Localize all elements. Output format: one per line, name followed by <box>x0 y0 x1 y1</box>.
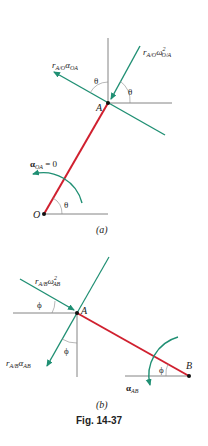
alpha-oa-curved-arrow <box>33 173 82 203</box>
alpha-oa-label: αOA = 0 <box>30 159 58 170</box>
theta-label-o: θ <box>64 200 68 210</box>
panel-a: θ θ θ A O (a) rA/OαOA rA/Oω2O/A αOA = 0 <box>30 38 172 236</box>
theta-arc-top <box>90 82 108 93</box>
panel-b-label: (b) <box>96 399 108 411</box>
point-b-dot <box>187 374 191 378</box>
panel-b: ϕ ϕ ϕ A B (b) rA/Bω2AB rA/BαAB αAB <box>6 257 192 411</box>
phi-arc-b <box>166 364 168 376</box>
panel-a-label: (a) <box>96 224 108 236</box>
tangential-label-b: rA/BαAB <box>6 358 31 369</box>
point-a-label: A <box>95 102 103 113</box>
phi-label-bottom: ϕ <box>64 346 69 356</box>
tangential-accel-vector-b <box>47 313 77 366</box>
tangential-label-a: rA/OαOA <box>52 60 78 71</box>
point-a-dot-b <box>75 311 79 315</box>
point-a-dot <box>106 101 110 105</box>
link-ab <box>77 313 189 376</box>
normal-label-a: rA/Oω2O/A <box>143 46 172 58</box>
figure-caption: Fig. 14-37 <box>76 415 123 426</box>
theta-label-right: θ <box>128 87 132 97</box>
normal-accel-vector-a <box>111 46 140 99</box>
normal-label-b: rA/Bω2AB <box>35 275 61 287</box>
phi-label-left: ϕ <box>37 300 42 310</box>
alpha-ab-label: αAB <box>126 383 139 394</box>
point-a-label-b: A <box>80 305 88 316</box>
point-b-label: B <box>186 360 192 371</box>
point-o-label: O <box>33 209 40 220</box>
point-o-dot <box>42 212 46 216</box>
phi-arc-bottom <box>62 339 77 343</box>
phi-arc-left <box>52 301 55 313</box>
theta-label-top: θ <box>94 76 98 86</box>
phi-label-b: ϕ <box>159 365 164 375</box>
figure-canvas: θ θ θ A O (a) rA/OαOA rA/Oω2O/A αOA = 0 … <box>0 0 208 446</box>
theta-arc-o <box>53 198 62 214</box>
